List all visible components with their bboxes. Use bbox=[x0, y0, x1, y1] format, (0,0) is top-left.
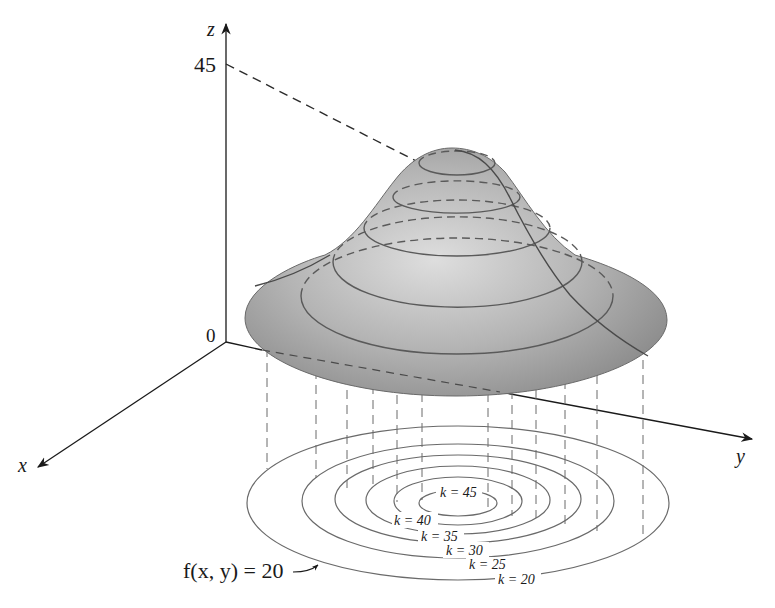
svg-text:k = 45: k = 45 bbox=[440, 485, 477, 500]
z-axis-label: z bbox=[206, 18, 215, 40]
level-label-k45: k = 45 bbox=[436, 484, 482, 500]
level-curves-diagram: z 45 0 x y k = 45 k = 40 k = 35 k = 30 k… bbox=[0, 0, 775, 608]
annotation-arrow bbox=[293, 565, 318, 572]
surface-body bbox=[245, 148, 667, 396]
z-45-dashed-line bbox=[226, 64, 420, 163]
svg-text:k = 25: k = 25 bbox=[469, 557, 506, 572]
z-tick-45: 45 bbox=[194, 52, 216, 77]
x-axis-label: x bbox=[17, 454, 27, 476]
surface bbox=[245, 148, 667, 396]
x-axis bbox=[38, 342, 226, 467]
origin-label: 0 bbox=[206, 325, 216, 346]
level-label-k20: k = 20 bbox=[495, 571, 541, 587]
svg-text:k = 40: k = 40 bbox=[394, 513, 431, 528]
svg-text:k = 20: k = 20 bbox=[498, 572, 535, 587]
svg-text:k = 35: k = 35 bbox=[421, 529, 458, 544]
annotation-f-equals-20: f(x, y) = 20 bbox=[183, 558, 283, 583]
y-axis-label: y bbox=[734, 445, 745, 468]
level-label-k40: k = 40 bbox=[392, 512, 438, 528]
level-label-k25: k = 25 bbox=[466, 557, 512, 573]
svg-text:k = 30: k = 30 bbox=[446, 543, 483, 558]
level-label-k30: k = 30 bbox=[443, 542, 489, 558]
